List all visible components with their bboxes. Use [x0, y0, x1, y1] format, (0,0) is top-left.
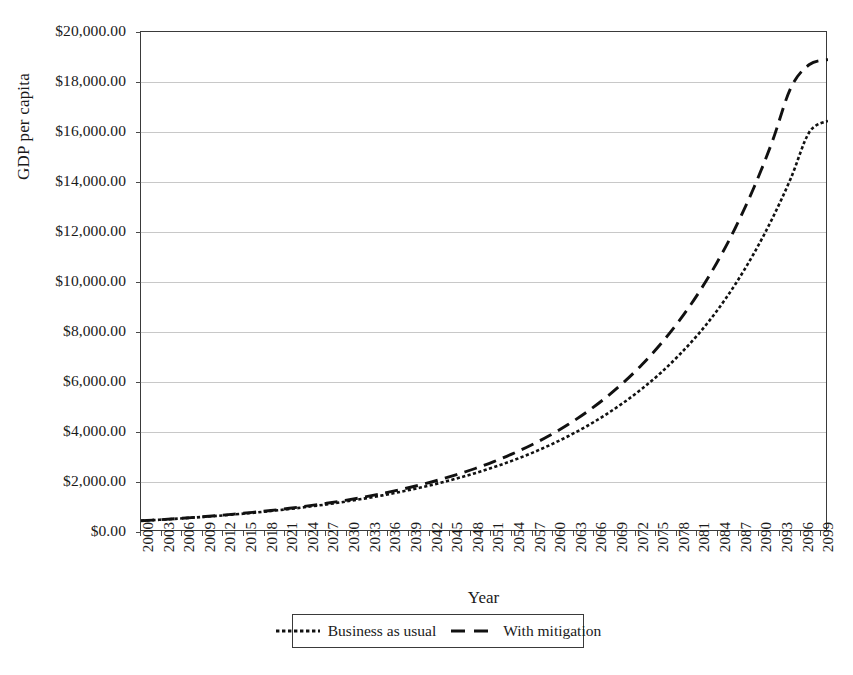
x-axis-tick-label: 2012 [222, 522, 239, 552]
x-axis-tick-label: 2000 [140, 522, 157, 552]
x-axis-tick-label: 2069 [614, 522, 631, 552]
x-tick-mark [429, 531, 430, 536]
x-tick-mark [717, 531, 718, 536]
x-tick-mark [243, 531, 244, 536]
x-tick-mark [222, 531, 223, 536]
x-tick-mark [635, 531, 636, 536]
x-axis-tick-label: 2003 [161, 522, 178, 552]
x-tick-mark [593, 531, 594, 536]
x-tick-mark [573, 531, 574, 536]
x-axis-tick-label: 2072 [635, 522, 652, 552]
x-axis-tick-label: 2051 [490, 522, 507, 552]
x-axis-tick-label: 2027 [325, 522, 342, 552]
x-tick-mark [532, 531, 533, 536]
x-axis-title: Year [140, 588, 827, 608]
x-tick-mark [161, 531, 162, 536]
x-tick-mark [387, 531, 388, 536]
x-axis-tick-label: 2021 [284, 522, 301, 552]
x-axis-tick-label: 2057 [532, 522, 549, 552]
x-axis-tick-label: 2006 [181, 522, 198, 552]
x-tick-mark [676, 531, 677, 536]
x-tick-mark [449, 531, 450, 536]
y-axis-tick-label: $2,000.00 [63, 472, 126, 490]
y-axis-tick-label: $14,000.00 [55, 172, 126, 190]
x-tick-mark [140, 531, 141, 536]
x-tick-mark [346, 531, 347, 536]
x-axis-tick-label: 2087 [738, 522, 755, 552]
x-axis-tick-label: 2081 [696, 522, 713, 552]
x-tick-mark [614, 531, 615, 536]
y-axis-tick-label: $12,000.00 [55, 222, 126, 240]
y-axis-tick-label: $6,000.00 [63, 372, 126, 390]
x-tick-mark [264, 531, 265, 536]
y-axis-tick-label: $18,000.00 [55, 72, 126, 90]
x-axis-tick-label: 2033 [367, 522, 384, 552]
legend-label: Business as usual [328, 622, 437, 640]
x-tick-mark [779, 531, 780, 536]
y-axis-tick-label: $10,000.00 [55, 272, 126, 290]
x-tick-mark [470, 531, 471, 536]
x-tick-mark [800, 531, 801, 536]
x-axis-tick-label: 2015 [243, 522, 260, 552]
x-tick-mark [181, 531, 182, 536]
x-axis-tick-label: 2036 [387, 522, 404, 552]
series-lines [141, 32, 826, 530]
x-axis-tick-label: 2030 [346, 522, 363, 552]
x-tick-mark [202, 531, 203, 536]
x-axis-tick-label: 2063 [573, 522, 590, 552]
legend-item: Business as usual [275, 622, 437, 640]
plot-area [140, 31, 827, 531]
chart-legend: Business as usualWith mitigation [292, 614, 584, 648]
x-tick-mark [738, 531, 739, 536]
x-tick-mark [758, 531, 759, 536]
x-tick-mark [490, 531, 491, 536]
x-axis-tick-label: 2093 [779, 522, 796, 552]
x-axis-tick-label: 2096 [800, 522, 817, 552]
y-axis-tick-label: $0.00 [91, 522, 126, 540]
x-tick-mark [696, 531, 697, 536]
series-line-dashed [141, 60, 828, 521]
legend-swatch-dashed [450, 626, 496, 636]
x-tick-mark [511, 531, 512, 536]
y-axis-tick-label: $16,000.00 [55, 122, 126, 140]
x-tick-mark [325, 531, 326, 536]
x-axis-tick-label: 2084 [717, 522, 734, 552]
x-axis-tick-label: 2099 [820, 522, 837, 552]
x-axis-tick-label: 2042 [429, 522, 446, 552]
y-axis-tick-label: $4,000.00 [63, 422, 126, 440]
x-axis-tick-label: 2048 [470, 522, 487, 552]
x-axis-tick-label: 2075 [655, 522, 672, 552]
legend-label: With mitigation [503, 622, 601, 640]
x-tick-mark [655, 531, 656, 536]
x-tick-mark [284, 531, 285, 536]
x-axis-tick-label: 2045 [449, 522, 466, 552]
x-axis-tick-label: 2078 [676, 522, 693, 552]
x-axis-tick-labels: 2000200320062009201220152018202120242027… [140, 531, 827, 532]
chart-figure: GDP per capita $0.00$2,000.00$4,000.00$6… [0, 0, 853, 675]
x-tick-mark [305, 531, 306, 536]
x-tick-mark [408, 531, 409, 536]
y-axis-tick-labels: $0.00$2,000.00$4,000.00$6,000.00$8,000.0… [0, 0, 133, 675]
x-tick-mark [367, 531, 368, 536]
x-axis-tick-label: 2090 [758, 522, 775, 552]
series-line-dotted [141, 121, 828, 521]
y-axis-tick-label: $20,000.00 [55, 22, 126, 40]
x-axis-tick-label: 2024 [305, 522, 322, 552]
x-axis-tick-label: 2009 [202, 522, 219, 552]
x-tick-mark [820, 531, 821, 536]
x-tick-mark [552, 531, 553, 536]
legend-swatch-dotted [275, 626, 321, 636]
y-axis-tick-label: $8,000.00 [63, 322, 126, 340]
x-axis-tick-label: 2039 [408, 522, 425, 552]
x-axis-tick-label: 2060 [552, 522, 569, 552]
x-axis-tick-label: 2066 [593, 522, 610, 552]
legend-item: With mitigation [450, 622, 601, 640]
x-axis-tick-label: 2018 [264, 522, 281, 552]
x-axis-tick-label: 2054 [511, 522, 528, 552]
